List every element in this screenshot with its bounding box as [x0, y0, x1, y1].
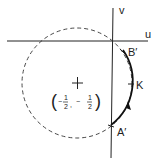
y-numerator: 1 — [88, 94, 92, 101]
right-paren: ) — [95, 91, 101, 111]
solid-arc — [111, 50, 133, 125]
y-sign: − — [76, 98, 80, 105]
center-coordinate-label: ( − 1 2 , − 1 2 ) — [51, 91, 101, 111]
x-sign: − — [58, 98, 62, 105]
v-axis-label: v — [119, 4, 125, 16]
left-paren: ( — [51, 91, 57, 111]
v-axis — [111, 8, 113, 158]
u-axis-label: u — [145, 28, 151, 40]
point-label-b-prime: B′ — [128, 46, 137, 58]
x-denominator: 2 — [64, 103, 68, 110]
comma: , — [70, 101, 72, 108]
point-label-k: K — [136, 79, 144, 91]
complex-plane-diagram: v u B′ K A′ ( − 1 2 , − 1 2 ) — [0, 0, 152, 163]
point-label-a-prime: A′ — [117, 126, 126, 138]
x-numerator: 1 — [64, 94, 68, 101]
y-denominator: 2 — [88, 103, 92, 110]
